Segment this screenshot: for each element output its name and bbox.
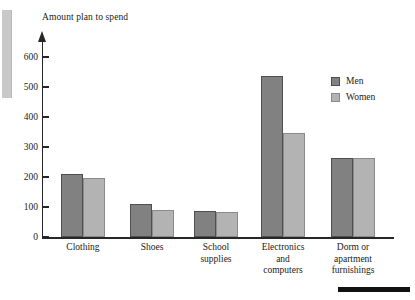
legend-label-women: Women [346,92,375,102]
legend-item-women: Women [331,90,375,104]
y-tick-100 [42,206,49,207]
legend-swatch-men-icon [331,77,340,86]
y-tick-label-100: 100 [12,202,38,212]
category-label-4: Dorm or apartment furnishings [308,242,398,277]
bar-men-3 [261,76,283,237]
y-tick-label-200: 200 [12,172,38,182]
legend-swatch-women-icon [331,93,340,102]
chart-legend: Men Women [331,74,375,106]
y-tick-label-300: 300 [12,142,38,152]
y-axis-arrow-icon [38,31,46,42]
y-tick-label-400: 400 [12,112,38,122]
bar-men-2 [194,211,216,237]
y-tick-200 [42,176,49,177]
y-tick-label-0: 0 [12,232,38,242]
y-tick-300 [42,146,49,147]
y-tick-label-600: 600 [12,52,38,62]
bar-women-4 [353,158,375,237]
y-tick-500 [42,86,49,87]
y-axis-line [42,40,43,238]
y-tick-600 [42,56,49,57]
bar-women-2 [216,212,238,237]
bar-women-3 [283,133,305,237]
bar-men-4 [331,158,353,238]
y-tick-400 [42,116,49,117]
bar-women-1 [152,210,174,237]
footer-rule [338,287,410,292]
legend-item-men: Men [331,74,375,88]
bar-chart-figure: Amount plan to spend 0100200300400500600… [0,0,415,300]
bar-men-0 [61,174,83,237]
x-axis-line [42,237,394,239]
legend-label-men: Men [346,76,363,86]
y-axis-title: Amount plan to spend [42,12,128,22]
y-tick-label-500: 500 [12,82,38,92]
scan-edge-artifact [2,10,12,98]
bar-men-1 [130,204,152,237]
bar-women-0 [83,178,105,237]
y-tick-0 [42,236,49,237]
